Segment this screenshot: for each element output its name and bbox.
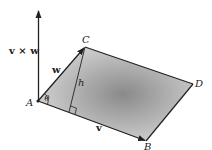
label-h: h (78, 77, 84, 88)
parallelogram-area (38, 47, 193, 141)
label-v: v (95, 122, 103, 133)
label-w: w (51, 64, 61, 75)
label-theta: θ (45, 94, 50, 103)
label-point-c: C (82, 34, 90, 45)
point-a-dot (36, 99, 39, 102)
label-cross-product: v × w (8, 45, 39, 56)
label-point-d: D (194, 78, 203, 89)
parallelogram-diagram: v × w w v h θ A B C D (0, 0, 212, 150)
label-point-b: B (143, 141, 151, 150)
label-point-a: A (25, 97, 33, 108)
